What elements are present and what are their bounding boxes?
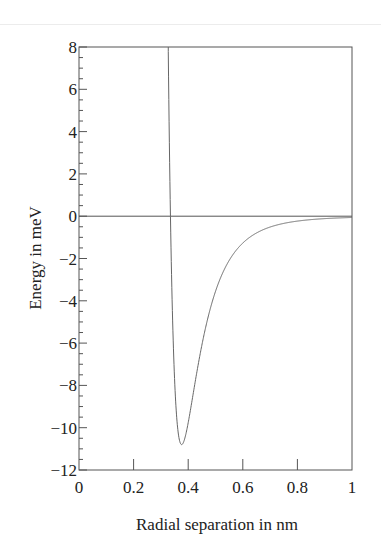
y-tick-label: −2 — [59, 250, 77, 269]
plot-frame — [79, 47, 352, 470]
y-tick-label: −4 — [59, 292, 78, 311]
x-tick-label: 0.8 — [287, 478, 308, 497]
y-axis-label: Energy in meV — [26, 206, 45, 310]
y-tick-label: 6 — [69, 80, 78, 99]
y-tick-label: 8 — [69, 38, 78, 57]
x-axis-tick-labels: 00.20.40.60.81 — [75, 478, 357, 497]
y-tick-label: −10 — [50, 419, 77, 438]
y-axis-tick-labels: −12−10−8−6−4−202468 — [50, 38, 77, 480]
y-tick-label: 0 — [69, 207, 78, 226]
x-axis-label: Radial separation in nm — [136, 515, 298, 534]
x-tick-label: 0 — [75, 478, 84, 497]
x-axis-ticks — [134, 459, 298, 470]
y-tick-label: −6 — [59, 334, 77, 353]
y-tick-label: −8 — [59, 376, 77, 395]
y-axis-ticks — [79, 47, 87, 470]
x-tick-label: 0.4 — [178, 478, 200, 497]
potential-curve — [168, 47, 352, 445]
energy-vs-separation-chart: −12−10−8−6−4−202468 00.20.40.60.81 Radia… — [0, 0, 381, 556]
x-tick-label: 0.2 — [123, 478, 144, 497]
y-tick-label: −12 — [50, 461, 77, 480]
x-tick-label: 0.6 — [232, 478, 253, 497]
x-tick-label: 1 — [348, 478, 357, 497]
y-tick-label: 2 — [69, 165, 78, 184]
y-tick-label: 4 — [69, 123, 78, 142]
